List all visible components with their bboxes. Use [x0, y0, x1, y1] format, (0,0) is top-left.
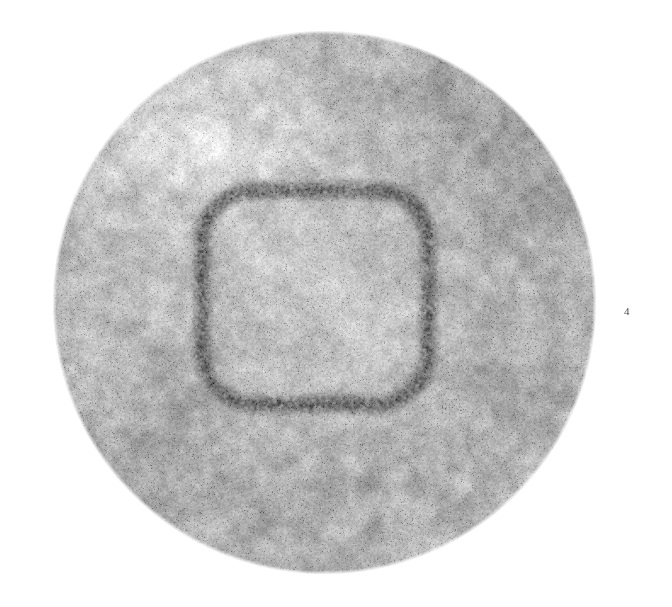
figure-root: 4 — [0, 0, 672, 607]
figure-number-label: 4 — [624, 306, 630, 317]
electron-micrograph-image — [0, 0, 672, 607]
